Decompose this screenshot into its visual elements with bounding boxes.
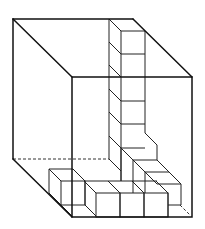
hidden-edges	[13, 159, 190, 215]
box-with-cubes-figure	[0, 0, 205, 229]
diagram-canvas: Cubes arranged inside a transparent rect…	[0, 0, 205, 229]
box-outline	[13, 19, 192, 217]
bottom-front-cube-row	[84, 181, 168, 217]
vertical-cube-column	[109, 19, 145, 181]
